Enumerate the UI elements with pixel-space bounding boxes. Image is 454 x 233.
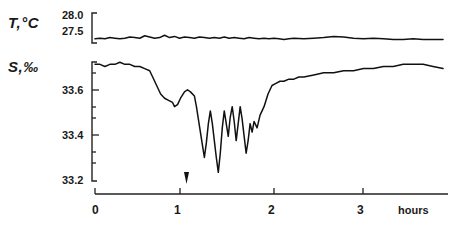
chart-canvas (0, 0, 454, 233)
temperature-trace (95, 35, 443, 39)
x-axis (95, 188, 448, 194)
salinity-trace (95, 62, 443, 172)
salinity-axis-bracket (92, 62, 99, 181)
event-marker-arrow-icon (184, 172, 189, 184)
oceanographic-timeseries-figure: T,°C S,‰ 28.0 27.5 33.6 33.4 33.2 0 1 2 … (0, 0, 454, 233)
